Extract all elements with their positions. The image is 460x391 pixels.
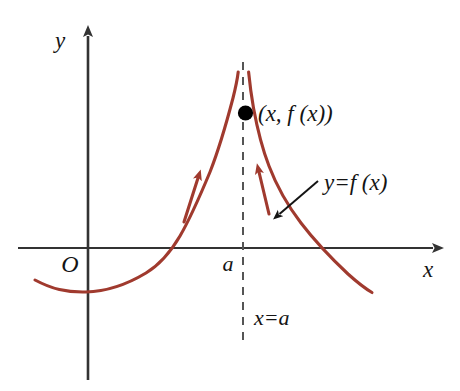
graph-canvas: y x O a (x, f (x)) y=f (x) x=a	[0, 0, 460, 391]
a-tick-label: a	[223, 251, 234, 276]
marked-point-label: (x, f (x))	[258, 101, 333, 126]
origin-label: O	[61, 251, 78, 277]
y-axis-label: y	[53, 28, 66, 53]
marked-point-dot	[238, 105, 253, 120]
function-label: y=f (x)	[322, 170, 387, 195]
calculus-figure: y x O a (x, f (x)) y=f (x) x=a	[0, 0, 460, 391]
x-axis-label: x	[422, 257, 434, 282]
axes-group	[18, 36, 433, 380]
right-branch-direction-arrow	[259, 172, 269, 214]
asymptote-label: x=a	[253, 305, 290, 330]
